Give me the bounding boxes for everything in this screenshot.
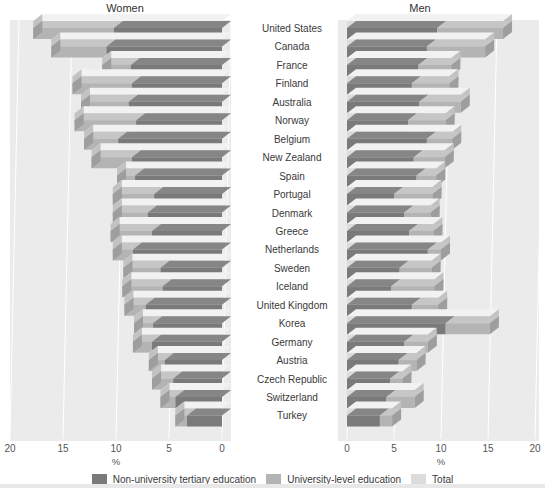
- bar-women-total-15-top: [124, 291, 231, 298]
- bar-men-total-3-top: [347, 69, 458, 76]
- category-label-canada: Canada: [240, 41, 344, 52]
- bar-men-university-21-front: [380, 415, 392, 426]
- bar-women-total-10-top: [113, 199, 231, 206]
- bar-men-total-11-top: [347, 217, 442, 224]
- category-label-netherlands: Netherlands: [240, 244, 344, 255]
- bar-men-nonuniversity-8-top: [347, 169, 426, 176]
- bar-women-total-20-top: [161, 383, 231, 390]
- bar-women-total-2-top: [102, 51, 231, 58]
- bar-women-university-5-top: [75, 113, 145, 120]
- bar-men-nonuniversity-18-top: [347, 353, 408, 360]
- bar-women-university-1-top: [51, 39, 115, 46]
- axis-tick-women-20: 20: [0, 443, 22, 454]
- bar-men-total-1-top: [347, 32, 494, 39]
- bar-men-nonuniversity-6-top: [347, 132, 436, 139]
- axis-tick-women-0: 0: [210, 443, 234, 454]
- bar-women-total-5-top: [75, 106, 231, 113]
- bar-women-nonuniversity-4-top: [129, 95, 231, 102]
- category-label-portugal: Portugal: [240, 189, 344, 200]
- bar-women-total-6-top: [84, 125, 231, 132]
- bar-men-total-0-top: [347, 14, 512, 21]
- bar-men-nonuniversity-14-top: [347, 279, 400, 286]
- bar-women-total-4-top: [81, 88, 231, 95]
- bar-women-total-11-top: [111, 217, 231, 224]
- bar-men-total-12-top: [347, 235, 450, 242]
- axis-tick-men-20: 20: [523, 443, 545, 454]
- bar-men-university-1-top: [427, 39, 494, 46]
- bar-men-total-15-top: [347, 291, 447, 298]
- bar-women-nonuniversity-14-top: [163, 279, 231, 286]
- axis-tick-women-15: 15: [51, 443, 75, 454]
- bar-women-nonuniversity-20-top: [175, 390, 231, 397]
- axis-tick-men-10: 10: [429, 443, 453, 454]
- category-label-australia: Australia: [240, 97, 344, 108]
- axis-tick-men-0: 0: [335, 443, 359, 454]
- category-label-greece: Greece: [240, 226, 344, 237]
- bar-women-total-8-top: [117, 162, 231, 169]
- bar-women-nonuniversity-17-top: [152, 335, 231, 342]
- category-label-belgium: Belgium: [240, 134, 344, 145]
- bar-men-nonuniversity-19-top: [347, 372, 399, 379]
- bar-men-nonuniversity-1-top: [347, 39, 436, 46]
- category-label-united-states: United States: [240, 23, 344, 34]
- bar-women-total-19-top: [152, 365, 231, 372]
- bar-men-nonuniversity-17-top: [347, 335, 413, 342]
- bar-men-nonuniversity-9-top: [347, 187, 403, 194]
- bar-men-nonuniversity-2-top: [347, 58, 427, 65]
- bar-men-total-4-top: [347, 88, 470, 95]
- bar-women-nonuniversity-7-top: [132, 150, 231, 157]
- bar-women-total-16-top: [134, 309, 231, 316]
- bar-women-nonuniversity-1-top: [106, 39, 231, 46]
- axis-unit-women: %: [106, 456, 126, 467]
- bar-women-nonuniversity-12-top: [133, 242, 231, 249]
- axis-tick-men-15: 15: [476, 443, 500, 454]
- bar-women-total-3-top: [73, 69, 231, 76]
- bar-men-total-17-top: [347, 328, 437, 335]
- bar-women-total-17-top: [133, 328, 231, 335]
- bar-men-total-18-top: [347, 346, 426, 353]
- category-label-united-kingdom: United Kingdom: [240, 300, 344, 311]
- bar-women-total-13-top: [123, 254, 231, 261]
- bar-women-nonuniversity-0-top: [114, 21, 231, 28]
- category-label-austria: Austria: [240, 355, 344, 366]
- bar-women-total-7-top: [92, 143, 231, 150]
- bar-women-nonuniversity-3-top: [132, 76, 231, 83]
- axis-tick-women-5: 5: [157, 443, 181, 454]
- bar-men-nonuniversity-3-top: [347, 76, 421, 83]
- category-label-korea: Korea: [240, 318, 344, 329]
- bottom-divider: [0, 484, 545, 488]
- category-label-switzerland: Switzerland: [240, 392, 344, 403]
- bar-men-total-13-top: [347, 254, 441, 261]
- bar-women-nonuniversity-16-top: [153, 316, 231, 323]
- bar-women-total-14-top: [122, 272, 231, 279]
- bar-men-nonuniversity-21-front: [347, 415, 380, 426]
- bar-men-total-19-top: [347, 365, 411, 372]
- bar-men-nonuniversity-10-top: [347, 206, 413, 213]
- bar-women-total-12-top: [113, 235, 231, 242]
- category-label-denmark: Denmark: [240, 208, 344, 219]
- bar-men-nonuniversity-12-top: [347, 242, 437, 249]
- bar-women-nonuniversity-15-top: [146, 298, 231, 305]
- bar-men-nonuniversity-5-top: [347, 113, 417, 120]
- bar-men-total-10-top: [347, 199, 440, 206]
- category-label-spain: Spain: [240, 171, 344, 182]
- category-label-czech-republic: Czech Republic: [240, 374, 344, 385]
- bar-men-nonuniversity-11-top: [347, 224, 418, 231]
- bar-women-nonuniversity-2-top: [131, 58, 231, 65]
- bar-women-total-1-top: [51, 32, 231, 39]
- axis-unit-men: %: [431, 456, 451, 467]
- bar-men-total-6-top: [347, 125, 461, 132]
- bar-women-nonuniversity-13-top: [161, 261, 231, 268]
- category-label-new-zealand: New Zealand: [240, 152, 344, 163]
- category-label-france: France: [240, 60, 344, 71]
- bar-women-nonuniversity-19-top: [173, 372, 231, 379]
- bar-men-university-14-top: [391, 279, 443, 286]
- bar-men-total-5-top: [347, 106, 455, 113]
- bar-men-university-0-top: [437, 21, 512, 28]
- category-label-norway: Norway: [240, 115, 344, 126]
- bar-women-nonuniversity-8-top: [135, 169, 231, 176]
- bar-women-nonuniversity-10-top: [148, 206, 231, 213]
- category-label-sweden: Sweden: [240, 263, 344, 274]
- category-label-turkey: Turkey: [240, 410, 344, 421]
- bar-women-nonuniversity-5-top: [136, 113, 231, 120]
